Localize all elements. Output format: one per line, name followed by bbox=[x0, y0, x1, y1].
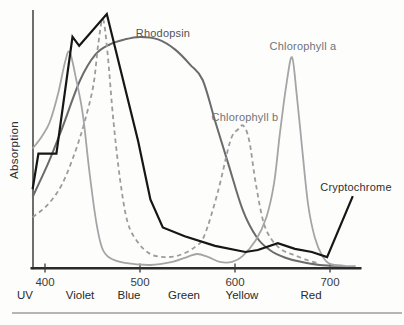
series-label-cryptochrome: Cryptochrome bbox=[320, 181, 391, 193]
series-label-chlorophyll-b: Chlorophyll b bbox=[212, 111, 279, 123]
series-label-rhodopsin: Rhodopsin bbox=[136, 27, 190, 39]
band-label-red: Red bbox=[300, 289, 321, 301]
x-tick-label-700: 700 bbox=[320, 276, 339, 288]
spectra-chart-canvas: 400500600700UVVioletBlueGreenYellowRedRh… bbox=[0, 0, 404, 325]
band-label-blue: Blue bbox=[117, 289, 140, 301]
absorption-spectra-figure: 400500600700UVVioletBlueGreenYellowRedRh… bbox=[0, 0, 404, 325]
series-curve-rhodopsin bbox=[33, 37, 346, 266]
series-curve-chlorophyll-a bbox=[33, 51, 356, 266]
x-tick-label-600: 600 bbox=[225, 276, 244, 288]
y-axis-title: Absorption bbox=[8, 121, 20, 179]
x-tick-label-400: 400 bbox=[35, 276, 54, 288]
band-label-uv: UV bbox=[17, 289, 33, 301]
band-label-yellow: Yellow bbox=[226, 289, 260, 301]
x-tick-label-500: 500 bbox=[130, 276, 149, 288]
figure-bottom-rule bbox=[12, 312, 402, 314]
band-label-violet: Violet bbox=[66, 289, 95, 301]
series-label-chlorophyll-a: Chlorophyll a bbox=[270, 40, 337, 52]
series-curve-chlorophyll-b bbox=[33, 19, 318, 263]
band-label-green: Green bbox=[168, 289, 200, 301]
